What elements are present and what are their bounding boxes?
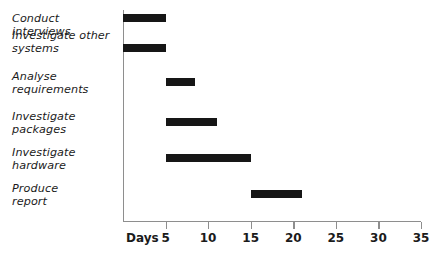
x-axis-tick: [336, 222, 337, 229]
x-axis-tick-label: 15: [242, 231, 259, 245]
x-axis-tick: [378, 222, 379, 229]
x-axis-tick: [251, 222, 252, 229]
gantt-bar: [123, 14, 166, 22]
gantt-chart: Conduct interviews Investigate other sys…: [0, 0, 439, 253]
plot-area: 5101520253035 Days: [0, 0, 439, 253]
x-axis-line: [123, 221, 421, 222]
x-axis-tick-label: 20: [285, 231, 302, 245]
x-axis-tick: [208, 222, 209, 229]
gantt-bar: [166, 118, 217, 126]
x-axis-title: Days: [126, 231, 159, 245]
x-axis-tick: [421, 222, 422, 229]
gantt-bar: [166, 78, 196, 86]
x-axis-tick: [166, 222, 167, 229]
x-axis-tick-label: 35: [413, 231, 430, 245]
gantt-bar: [166, 154, 251, 162]
gantt-bar: [251, 190, 302, 198]
gantt-bar: [123, 44, 166, 52]
x-axis-tick-label: 10: [200, 231, 217, 245]
x-axis-tick-label: 30: [370, 231, 387, 245]
x-axis-tick: [293, 222, 294, 229]
y-axis-line: [123, 10, 124, 222]
x-axis-tick-label: 5: [161, 231, 169, 245]
x-axis-tick-label: 25: [327, 231, 344, 245]
